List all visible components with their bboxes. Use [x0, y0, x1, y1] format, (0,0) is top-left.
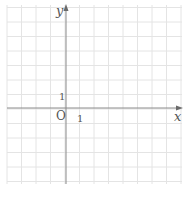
x-axis-label: x — [174, 109, 182, 124]
grid-lines — [7, 5, 182, 184]
y-axis-label: y — [55, 3, 64, 18]
coordinate-plane: y x O 1 1 — [0, 0, 196, 197]
y-unit-label: 1 — [59, 91, 65, 102]
origin-label: O — [56, 109, 66, 123]
x-unit-label: 1 — [77, 113, 83, 124]
x-axis — [7, 106, 183, 111]
